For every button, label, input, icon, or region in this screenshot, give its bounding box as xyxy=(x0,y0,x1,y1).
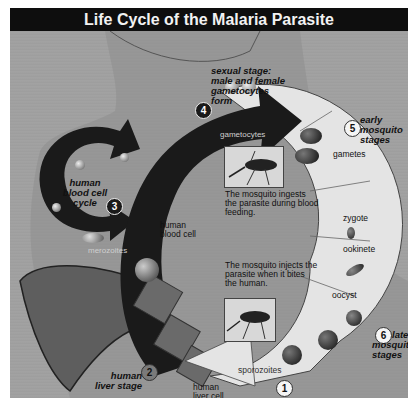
oocyst-icon xyxy=(318,330,338,350)
mosquito-icon xyxy=(225,299,275,341)
blood-cell-icon xyxy=(75,160,85,170)
gamete-icon xyxy=(295,148,319,164)
inject-caption: The mosquito injects the parasite when i… xyxy=(225,261,317,288)
zygote-label: zygote xyxy=(343,214,368,223)
stage-6-label: late mosquito stages xyxy=(372,330,408,360)
stage-number-2: 2 xyxy=(141,364,158,381)
diagram-frame: Life Cycle of the Malaria Parasite xyxy=(10,8,408,398)
stage-number-5: 5 xyxy=(344,120,361,137)
zygote-icon xyxy=(347,227,355,239)
stage-4-label: sexual stage: male and female gametocyte… xyxy=(211,66,285,106)
mosquito-icon xyxy=(225,147,283,187)
human-liver-cell-label: human liver cell xyxy=(193,383,224,398)
oocyst-icon xyxy=(282,345,302,365)
merozoite-cluster-icon xyxy=(82,233,104,243)
mosquito-ingesting-image xyxy=(224,146,284,188)
sporozoites-label: sporozoites xyxy=(238,366,281,375)
gametes-label: gametes xyxy=(333,150,366,159)
ingest-caption: The mosquito ingests the parasite during… xyxy=(225,190,319,217)
ookinete-label: ookinete xyxy=(343,245,375,254)
gamete-icon xyxy=(300,128,322,144)
oocyst-label: oocyst xyxy=(332,291,357,300)
stage-number-4: 4 xyxy=(195,102,212,119)
merozoites-label: merozoites xyxy=(88,246,127,255)
stage-3-label: human blood cell cycle xyxy=(60,178,110,208)
stage-2-label: human liver stage xyxy=(72,371,142,391)
oocyst-icon xyxy=(346,310,362,326)
gametocytes-label: gametocytes xyxy=(220,130,265,139)
merozoite-cluster-icon xyxy=(135,258,159,282)
mosquito-biting-image xyxy=(224,298,276,342)
diagram-title: Life Cycle of the Malaria Parasite xyxy=(10,8,408,31)
stage-5-label: early mosquito stages xyxy=(360,115,403,145)
human-blood-cell-label: human blood cell xyxy=(160,221,196,239)
stage-number-1: 1 xyxy=(276,380,293,397)
blood-cell-icon xyxy=(120,153,129,162)
